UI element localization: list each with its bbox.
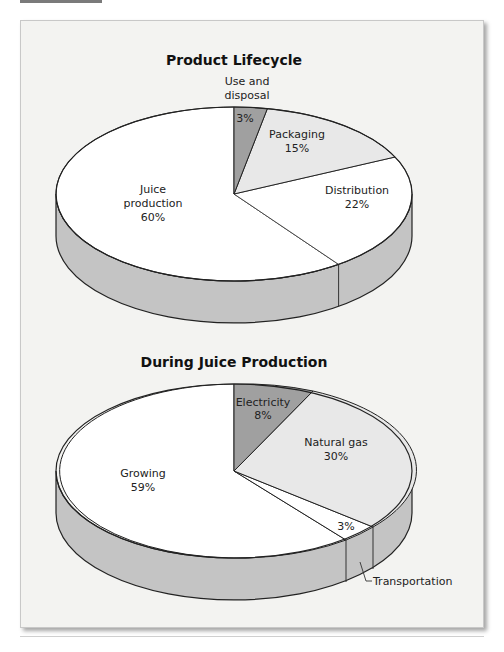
label-natural-gas: Natural gas — [304, 436, 368, 449]
label-natural-gas-pct: 30% — [324, 450, 348, 463]
label-growing: Growing — [120, 467, 166, 480]
label-use-line1: Use and — [225, 75, 270, 88]
label-transportation: Transportation — [372, 575, 452, 588]
label-transportation-pct: 3% — [337, 520, 354, 533]
label-electricity-pct: 8% — [254, 409, 271, 422]
pie-chart-during-juice-production: During Juice Production Electricity 8% N… — [56, 354, 452, 600]
label-packaging: Packaging — [269, 128, 325, 141]
label-growing-pct: 59% — [131, 481, 155, 494]
chart-title: During Juice Production — [141, 354, 328, 370]
label-juice-pct: 60% — [141, 211, 165, 224]
label-electricity: Electricity — [236, 396, 291, 409]
label-use-line2: disposal — [224, 89, 269, 102]
label-juice-line1: Juice — [139, 183, 166, 196]
label-distribution-pct: 22% — [345, 198, 369, 211]
pie-chart-product-lifecycle: Product Lifecycle Use and disposal 3% Pa… — [56, 52, 412, 323]
label-distribution: Distribution — [325, 184, 389, 197]
label-juice-line2: production — [123, 197, 182, 210]
label-packaging-pct: 15% — [285, 142, 309, 155]
chart-title: Product Lifecycle — [166, 52, 302, 68]
label-use-pct: 3% — [236, 112, 253, 125]
charts-canvas: Product Lifecycle Use and disposal 3% Pa… — [0, 0, 504, 652]
